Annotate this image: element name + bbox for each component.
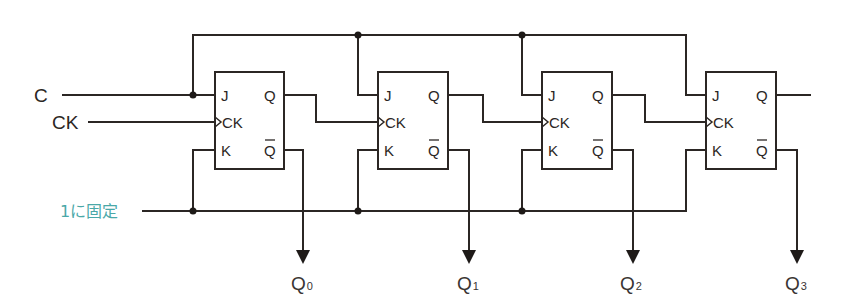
output-labels: Q0 Q1 Q2 Q3 bbox=[291, 273, 807, 294]
junction-dot bbox=[355, 32, 362, 39]
output-label-q3: Q3 bbox=[785, 273, 807, 294]
pin-ck: CK bbox=[385, 114, 406, 131]
jk-flip-flop-3: J CK K Q Q bbox=[706, 72, 776, 169]
pin-q-bar: Q bbox=[756, 142, 768, 159]
pin-j: J bbox=[384, 87, 392, 104]
pin-q-bar: Q bbox=[592, 142, 604, 159]
output-label-q1: Q1 bbox=[457, 273, 479, 294]
c-input-label: C bbox=[34, 85, 48, 106]
arrow-down-icon bbox=[626, 250, 640, 264]
junction-dot bbox=[190, 208, 197, 215]
jk-flip-flop-2: J CK K Q Q bbox=[542, 72, 612, 169]
pin-j: J bbox=[548, 87, 556, 104]
fixed-to-one-label: 1に固定 bbox=[60, 202, 118, 221]
arrow-down-icon bbox=[462, 250, 476, 264]
ck-input-label: CK bbox=[52, 112, 79, 133]
pin-q: Q bbox=[264, 87, 276, 104]
pin-k: K bbox=[548, 142, 558, 159]
c-input: C bbox=[34, 85, 215, 106]
pin-k: K bbox=[221, 142, 231, 159]
pin-ck: CK bbox=[222, 114, 243, 131]
ck-input: CK bbox=[52, 112, 215, 133]
pin-q: Q bbox=[756, 87, 768, 104]
junction-dot bbox=[190, 92, 197, 99]
junction-dot bbox=[355, 208, 362, 215]
junction-dot bbox=[519, 208, 526, 215]
pin-ck: CK bbox=[713, 114, 734, 131]
counter-circuit-diagram: C CK 1に固定 J CK bbox=[0, 0, 855, 306]
pin-q-bar: Q bbox=[428, 142, 440, 159]
pin-j: J bbox=[712, 87, 720, 104]
pin-k: K bbox=[712, 142, 722, 159]
junction-dot bbox=[519, 32, 526, 39]
output-label-q0: Q0 bbox=[291, 273, 313, 294]
output-label-q2: Q2 bbox=[620, 273, 642, 294]
arrow-down-icon bbox=[296, 250, 310, 264]
pin-q: Q bbox=[428, 87, 440, 104]
pin-j: J bbox=[221, 87, 229, 104]
pin-q-bar: Q bbox=[264, 142, 276, 159]
pin-ck: CK bbox=[549, 114, 570, 131]
jk-flip-flop-0: J CK K Q Q bbox=[215, 72, 284, 169]
pin-q: Q bbox=[592, 87, 604, 104]
jk-flip-flop-1: J CK K Q Q bbox=[378, 72, 448, 169]
arrow-down-icon bbox=[790, 250, 804, 264]
pin-k: K bbox=[384, 142, 394, 159]
